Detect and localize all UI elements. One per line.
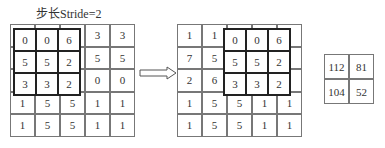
kernel-right-cell: 0 xyxy=(246,29,268,51)
kernel-right-cell: 2 xyxy=(268,51,290,73)
input-left-cell: 1 xyxy=(85,114,110,137)
input-right-cell: 1 xyxy=(177,24,202,47)
kernel-left-cell: 6 xyxy=(58,29,80,51)
kernel-left-cell: 3 xyxy=(36,73,58,95)
kernel-left-cell: 2 xyxy=(58,73,80,95)
input-right-cell: 7 xyxy=(177,47,202,70)
output-cell: 104 xyxy=(324,79,349,104)
kernel-right-cell: 2 xyxy=(268,73,290,95)
input-left-cell: 5 xyxy=(110,47,135,70)
input-left-cell: 3 xyxy=(110,24,135,47)
kernel-left-cell: 0 xyxy=(36,29,58,51)
input-left-cell: 1 xyxy=(110,92,135,115)
kernel-left-cell: 5 xyxy=(36,51,58,73)
kernel-overlay-right: 006552332 xyxy=(223,28,291,96)
input-right-cell: 5 xyxy=(227,114,252,137)
kernel-left-cell: 5 xyxy=(14,51,36,73)
input-right-cell: 2 xyxy=(177,69,202,92)
kernel-left-cell: 0 xyxy=(14,29,36,51)
input-left-cell: 0 xyxy=(110,69,135,92)
input-left-cell: 5 xyxy=(60,114,85,137)
input-right-cell: 5 xyxy=(202,114,227,137)
kernel-right-cell: 6 xyxy=(268,29,290,51)
output-feature-map: 1128110452 xyxy=(324,54,374,104)
input-right-cell: 1 xyxy=(177,92,202,115)
output-cell: 52 xyxy=(349,79,374,104)
input-left-cell: 1 xyxy=(85,92,110,115)
kernel-right-cell: 3 xyxy=(246,73,268,95)
input-right-cell: 1 xyxy=(177,114,202,137)
kernel-overlay-left: 006552332 xyxy=(13,28,81,96)
stride-title: 步长Stride=2 xyxy=(36,4,101,22)
kernel-left-cell: 3 xyxy=(14,73,36,95)
input-left-cell: 1 xyxy=(10,114,35,137)
input-right-cell: 1 xyxy=(277,114,302,137)
kernel-left-cell: 2 xyxy=(58,51,80,73)
kernel-right-cell: 3 xyxy=(224,73,246,95)
input-left-cell: 3 xyxy=(85,24,110,47)
kernel-right-cell: 0 xyxy=(224,29,246,51)
kernel-right-cell: 5 xyxy=(224,51,246,73)
double-right-arrow-icon xyxy=(139,66,177,80)
input-left-cell: 0 xyxy=(85,69,110,92)
input-left-cell: 5 xyxy=(35,114,60,137)
input-left-cell: 1 xyxy=(110,114,135,137)
kernel-right-cell: 5 xyxy=(246,51,268,73)
input-left-cell: 5 xyxy=(85,47,110,70)
output-cell: 112 xyxy=(324,54,349,79)
input-right-cell: 1 xyxy=(252,114,277,137)
output-cell: 81 xyxy=(349,54,374,79)
